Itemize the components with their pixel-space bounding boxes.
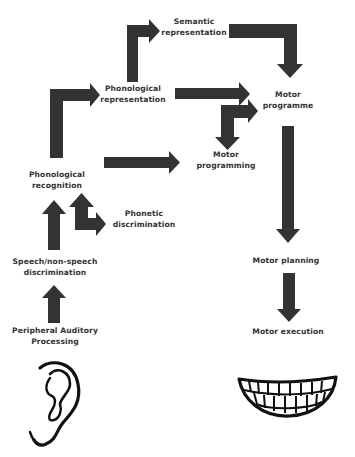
arrow-motor-programme-to-motor-planning — [276, 126, 300, 243]
arrow-phonrec-to-motor-programming — [104, 151, 180, 174]
arrow-phonrep-to-motor-programme — [175, 82, 250, 106]
node-semantic-representation: Semantic representation — [158, 17, 230, 38]
arrow-speech-to-phonrec — [42, 200, 66, 250]
ear-icon — [30, 363, 79, 445]
node-phonetic-discrimination: Phonetic discrimination — [110, 209, 178, 230]
arrow-semantic-to-motor-programme — [229, 24, 303, 78]
teeth-smile-icon — [239, 377, 336, 416]
arrow-peripheral-to-speech — [42, 285, 66, 323]
node-motor-execution: Motor execution — [250, 327, 326, 338]
node-motor-programming: Motor programming — [193, 150, 259, 171]
arrow-motor-planning-to-execution — [277, 273, 301, 322]
node-motor-programme: Motor programme — [258, 90, 318, 111]
node-phonological-recognition: Phonological recognition — [22, 170, 92, 191]
node-phonological-representation: Phonological representation — [98, 84, 168, 105]
arrow-phonrec-to-phonrep — [50, 83, 100, 158]
node-motor-planning: Motor planning — [250, 256, 322, 267]
arrow-phonrep-to-semantic — [127, 19, 160, 82]
arrow-motor-programme-motor-programming — [215, 99, 258, 150]
node-speech-nonspeech-discrimination: Speech/non-speech discrimination — [10, 257, 100, 278]
arrow-phonetic-phonrec — [69, 193, 106, 236]
node-peripheral-auditory-processing: Peripheral Auditory Processing — [10, 326, 100, 347]
